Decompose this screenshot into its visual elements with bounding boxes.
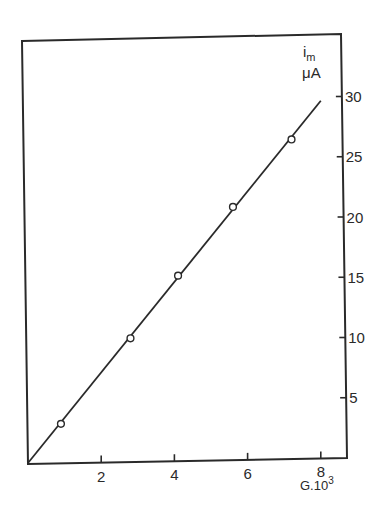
x-tick-label: 2 — [97, 468, 105, 485]
y-axis-label: im — [303, 43, 316, 63]
y-axis-ticks: 51015202530 — [336, 88, 365, 406]
x-axis-ticks: 2468 — [97, 451, 325, 484]
data-point — [288, 136, 295, 143]
data-point — [58, 420, 65, 427]
x-axis-label: G.103 — [300, 475, 334, 493]
y-tick-label: 30 — [345, 88, 362, 105]
data-point — [127, 335, 134, 342]
plot-frame — [22, 34, 347, 464]
y-tick-label: 10 — [348, 329, 365, 346]
x-tick-label: 6 — [243, 465, 251, 482]
y-tick-label: 15 — [347, 269, 364, 286]
x-tick-label: 4 — [170, 466, 178, 483]
y-axis-unit: μA — [302, 64, 321, 81]
chart: 2468 51015202530 G.103 im μA — [0, 0, 382, 530]
data-point — [175, 272, 182, 279]
y-tick-label: 25 — [346, 148, 363, 165]
fit-line — [28, 101, 321, 463]
y-tick-label: 5 — [349, 389, 357, 406]
data-point — [230, 204, 237, 211]
y-tick-label: 20 — [347, 209, 364, 226]
